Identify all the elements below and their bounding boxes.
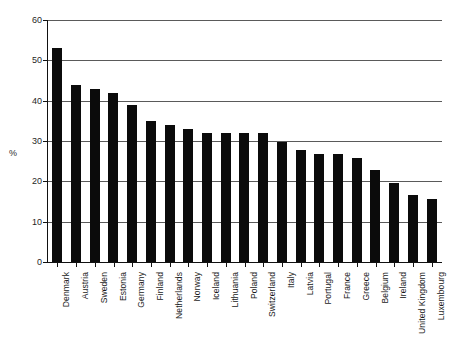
x-axis-label: Sweden <box>99 272 109 303</box>
x-axis-label: Poland <box>249 272 259 299</box>
bar[interactable] <box>427 199 437 262</box>
bar-slot <box>104 20 123 262</box>
x-axis-label: Norway <box>192 272 202 301</box>
bar[interactable] <box>165 125 175 262</box>
bar[interactable] <box>71 85 81 262</box>
x-tick-mark <box>114 263 115 267</box>
bar[interactable] <box>352 158 362 262</box>
x-axis-label: Belgium <box>380 272 390 303</box>
bar[interactable] <box>277 142 287 262</box>
bar[interactable] <box>239 133 249 262</box>
bar-slot <box>123 20 142 262</box>
x-tick-mark <box>95 263 96 267</box>
bar-slot <box>291 20 310 262</box>
bar-slot <box>385 20 404 262</box>
x-axis-label: Latvia <box>305 272 315 295</box>
bar[interactable] <box>296 150 306 262</box>
bar-slot <box>235 20 254 262</box>
x-tick-mark <box>357 263 358 267</box>
x-tick-mark <box>338 263 339 267</box>
x-tick-mark <box>376 263 377 267</box>
x-axis-label: Ireland <box>398 272 408 299</box>
x-axis-label: Iceland <box>211 272 221 300</box>
y-tick-label-20: 20 <box>32 176 42 186</box>
y-tick-label-0: 0 <box>37 257 42 267</box>
x-tick-mark <box>151 263 152 267</box>
bar[interactable] <box>52 48 62 262</box>
x-axis-label: Estonia <box>118 272 128 301</box>
x-tick-mark <box>132 263 133 267</box>
bar-slot <box>160 20 179 262</box>
x-axis-label: Finland <box>155 272 165 301</box>
plot-area: 0102030405060 DenmarkAustriaSwedenEstoni… <box>47 20 442 262</box>
x-tick-mark <box>170 263 171 267</box>
y-tick-label-50: 50 <box>32 55 42 65</box>
y-tick-label-60: 60 <box>32 15 42 25</box>
y-axis-title: % <box>9 148 17 158</box>
x-axis-label: Netherlands <box>174 272 184 319</box>
bar[interactable] <box>408 195 418 262</box>
bar[interactable] <box>90 89 100 262</box>
x-tick-mark <box>263 263 264 267</box>
bar[interactable] <box>108 93 118 262</box>
x-tick-mark <box>413 263 414 267</box>
bar[interactable] <box>333 154 343 262</box>
x-axis-label: Luxembourg <box>436 272 446 320</box>
y-tick-label-10: 10 <box>32 217 42 227</box>
y-tick-label-30: 30 <box>32 136 42 146</box>
bar-slot <box>48 20 67 262</box>
x-axis-label: Portugal <box>323 272 333 304</box>
bar[interactable] <box>146 121 156 262</box>
x-tick-mark <box>245 263 246 267</box>
x-axis-label: Lithuania <box>230 272 240 307</box>
bar-slot <box>179 20 198 262</box>
bar-slot <box>85 20 104 262</box>
bars-layer <box>48 20 442 262</box>
bar[interactable] <box>221 133 231 262</box>
bar[interactable] <box>389 183 399 262</box>
bar-slot <box>366 20 385 262</box>
bar[interactable] <box>202 133 212 262</box>
bar-slot <box>216 20 235 262</box>
y-tick-mark-0 <box>43 262 48 263</box>
bar-slot <box>254 20 273 262</box>
x-axis-label: France <box>342 272 352 299</box>
x-axis-label: United Kingdom <box>417 272 427 334</box>
x-axis-label: Greece <box>361 272 371 300</box>
bar-slot <box>142 20 161 262</box>
bar-slot <box>198 20 217 262</box>
x-axis-label: Italy <box>286 272 296 288</box>
bar-slot <box>422 20 441 262</box>
x-axis-label: Austria <box>80 272 90 299</box>
x-tick-mark <box>57 263 58 267</box>
x-tick-mark <box>188 263 189 267</box>
x-tick-mark <box>226 263 227 267</box>
x-axis-label: Germany <box>136 272 146 308</box>
x-tick-mark <box>319 263 320 267</box>
bar-slot <box>67 20 86 262</box>
x-tick-mark <box>432 263 433 267</box>
bar-slot <box>310 20 329 262</box>
x-axis-label: Switzerland <box>267 272 277 317</box>
bar[interactable] <box>314 154 324 262</box>
x-tick-mark <box>282 263 283 267</box>
x-tick-mark <box>394 263 395 267</box>
bar[interactable] <box>127 105 137 262</box>
bar-slot <box>347 20 366 262</box>
bar-chart: % 0102030405060 DenmarkAustriaSwedenEsto… <box>0 0 450 355</box>
bar-slot <box>273 20 292 262</box>
bar[interactable] <box>370 170 380 262</box>
bar[interactable] <box>258 133 268 262</box>
x-tick-mark <box>207 263 208 267</box>
x-tick-mark <box>301 263 302 267</box>
x-tick-mark <box>76 263 77 267</box>
bar[interactable] <box>183 129 193 262</box>
bar-slot <box>329 20 348 262</box>
bar-slot <box>404 20 423 262</box>
x-axis-label: Denmark <box>61 272 71 307</box>
y-tick-label-40: 40 <box>32 96 42 106</box>
